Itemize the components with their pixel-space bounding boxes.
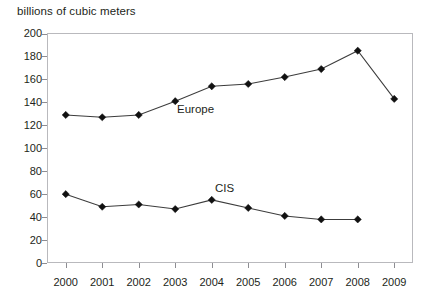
series-marker-cis <box>208 196 215 203</box>
y-axis-tick-mark <box>42 125 47 126</box>
series-marker-cis <box>62 191 69 198</box>
series-marker-cis <box>245 204 252 211</box>
series-marker-cis <box>135 201 142 208</box>
series-annotation-europe: Europe <box>177 103 214 115</box>
series-marker-cis <box>172 205 179 212</box>
series-plot-layer <box>0 0 434 303</box>
y-axis-tick-mark <box>42 56 47 57</box>
series-marker-europe <box>281 74 288 81</box>
y-axis-tick-mark <box>42 240 47 241</box>
series-marker-cis <box>318 216 325 223</box>
y-axis-tick-mark <box>42 171 47 172</box>
series-group <box>62 47 398 223</box>
y-axis-tick-mark <box>42 102 47 103</box>
y-axis-tick-mark <box>42 148 47 149</box>
series-line-europe <box>66 51 395 118</box>
series-marker-cis <box>354 216 361 223</box>
series-marker-cis <box>281 212 288 219</box>
y-axis-tick-mark <box>42 263 47 264</box>
series-marker-cis <box>99 203 106 210</box>
y-axis-tick-mark <box>42 217 47 218</box>
series-marker-europe <box>318 65 325 72</box>
y-axis-tick-mark <box>42 194 47 195</box>
series-annotation-cis: CIS <box>215 182 234 194</box>
y-axis-tick-mark <box>42 34 47 35</box>
chart-container: billions of cubic meters 020406080100120… <box>0 0 434 303</box>
y-axis-tick-mark <box>42 79 47 80</box>
series-marker-europe <box>135 111 142 118</box>
series-marker-europe <box>208 83 215 90</box>
series-marker-europe <box>245 80 252 87</box>
series-marker-europe <box>62 111 69 118</box>
series-marker-europe <box>99 114 106 121</box>
